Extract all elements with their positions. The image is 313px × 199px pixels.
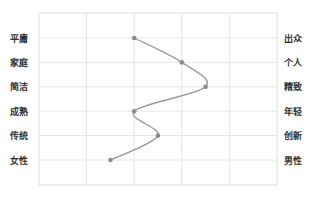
data-point-marker xyxy=(156,133,161,138)
right-category-label: 男性 xyxy=(284,155,302,166)
data-point-marker xyxy=(180,60,185,65)
right-category-label: 精致 xyxy=(284,81,303,92)
left-category-label: 女性 xyxy=(10,155,28,166)
plot-border xyxy=(39,13,277,185)
right-category-label: 出众 xyxy=(284,33,303,44)
series-line xyxy=(110,38,207,160)
left-category-label: 成熟 xyxy=(10,106,28,117)
right-category-label: 创新 xyxy=(283,130,302,141)
data-point-marker xyxy=(108,158,113,163)
left-category-label: 传统 xyxy=(9,130,28,141)
left-category-label: 平庸 xyxy=(10,33,28,44)
right-category-label: 年轻 xyxy=(284,106,302,117)
grid xyxy=(39,13,277,185)
right-axis-labels: 出众个人精致年轻创新男性 xyxy=(283,33,303,166)
data-point-marker xyxy=(132,36,137,41)
semantic-differential-chart: 平庸家庭简洁成熟传统女性 出众个人精致年轻创新男性 xyxy=(0,0,313,199)
left-category-label: 家庭 xyxy=(10,57,29,68)
data-point-marker xyxy=(132,109,137,114)
right-category-label: 个人 xyxy=(283,57,303,68)
data-markers xyxy=(108,36,208,163)
data-point-marker xyxy=(203,85,208,90)
left-category-label: 简洁 xyxy=(10,81,28,92)
left-axis-labels: 平庸家庭简洁成熟传统女性 xyxy=(9,33,29,166)
